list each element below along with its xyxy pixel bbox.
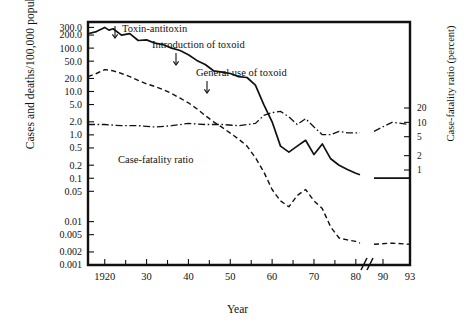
y-tick-label: 0.001	[60, 259, 83, 270]
right-y-tick-label: 5	[417, 132, 422, 142]
y-tick-label: 200.0	[60, 29, 83, 40]
y-tick-label: 0.002	[60, 246, 83, 257]
x-tick-label: 80	[351, 271, 362, 282]
x-tick-label: 50	[225, 271, 236, 282]
y-tick-label: 5.0	[70, 99, 83, 110]
y-tick-label: 0.005	[60, 229, 83, 240]
x-tick-label: 30	[141, 271, 152, 282]
chart-plot-area: 300.0200.0100.050.020.010.05.02.01.00.50…	[0, 0, 475, 326]
y-tick-label: 0.2	[70, 160, 83, 171]
x-tick-label: 70	[309, 271, 320, 282]
annotation-introduction-of-toxoid: Introduction of toxoid	[152, 39, 245, 50]
y-tick-label: 50.0	[65, 56, 83, 67]
y-tick-label: 2.0	[70, 116, 83, 127]
x-tick-label: 60	[267, 271, 278, 282]
plot-frame	[88, 22, 410, 265]
right-y-tick-label: 10	[417, 118, 427, 128]
right-y-tick-label: 1	[417, 165, 422, 175]
y-tick-label: 1.0	[70, 129, 83, 140]
x-tick-label: 40	[183, 271, 194, 282]
right-y-tick-label: 2	[417, 151, 422, 161]
y-tick-label: 0.5	[70, 142, 83, 153]
x-tick-label: 1920	[94, 271, 115, 282]
y-tick-label: 10.0	[65, 86, 83, 97]
y-tick-label: 0.1	[70, 173, 83, 184]
series-cfr	[88, 111, 410, 134]
y-tick-label: 100.0	[60, 43, 83, 54]
y-tick-label: 20.0	[65, 73, 83, 84]
annotation-general-use-of-toxoid: General use of toxoid	[196, 67, 287, 78]
right-y-tick-label: 20	[417, 103, 427, 113]
annotation-toxin-antitoxin: Toxin-antitoxin	[122, 23, 188, 34]
y-tick-label: 0.01	[65, 216, 83, 227]
x-tick-label: 93	[405, 271, 416, 282]
annotation-case-fatality-ratio: Case-fatality ratio	[118, 154, 194, 165]
x-tick-label: 90	[378, 271, 389, 282]
chart-figure: Cases and deaths/100,000 population Case…	[0, 0, 475, 326]
y-tick-label: 0.05	[65, 186, 83, 197]
